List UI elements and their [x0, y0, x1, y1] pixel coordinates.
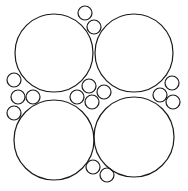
small-circle-bottom [86, 160, 100, 174]
small-circle-center [85, 95, 99, 109]
small-circles-group [7, 6, 180, 182]
small-circle-right [153, 88, 167, 102]
large-circle-bottom-right [94, 97, 174, 177]
small-circle-left [7, 73, 21, 87]
small-circle-center [70, 90, 84, 104]
small-circle-right [165, 76, 179, 90]
small-circle-right [166, 95, 180, 109]
small-circle-left [7, 106, 21, 120]
small-circle-top [78, 6, 92, 20]
small-circle-bottom [100, 168, 114, 182]
large-circle-top-left [15, 14, 93, 92]
small-circle-left [26, 90, 40, 104]
small-circle-center [97, 85, 111, 99]
circle-packing-diagram [0, 0, 188, 191]
large-circle-bottom-left [14, 100, 94, 180]
small-circle-center [82, 79, 96, 93]
small-circle-left [11, 90, 25, 104]
large-circle-top-right [95, 14, 173, 92]
large-circles-group [14, 14, 174, 180]
small-circle-top [87, 20, 101, 34]
